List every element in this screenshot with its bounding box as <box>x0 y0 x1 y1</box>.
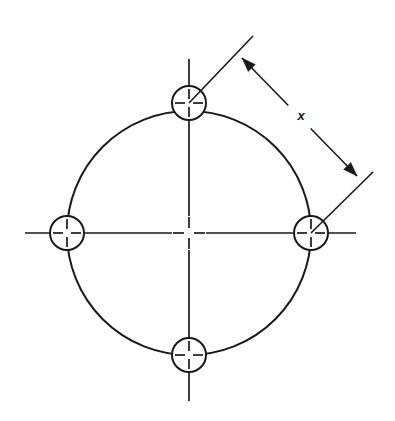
dimension-x-label: x <box>296 108 305 123</box>
extension-line-right-hole <box>311 172 373 233</box>
extension-line-top-hole <box>189 36 253 103</box>
drawing-svg: x <box>0 0 395 421</box>
technical-drawing-canvas: x <box>0 0 395 421</box>
